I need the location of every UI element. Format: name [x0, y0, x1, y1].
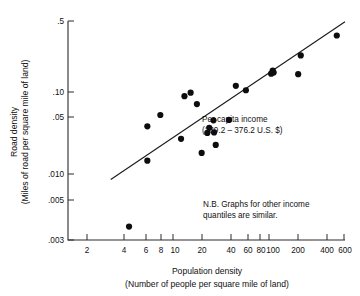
data-point [157, 112, 163, 118]
y-axis-sublabel: (Miles of road per square mile of land) [20, 60, 30, 205]
y-axis-label: Road density [9, 106, 19, 157]
data-point [178, 136, 184, 142]
x-axis-label: Population density [172, 266, 243, 276]
x-tick-label-600: 600 [338, 246, 352, 255]
x-tick-label-60: 60 [243, 246, 253, 255]
x-tick-label-40: 40 [226, 246, 236, 255]
data-point [194, 101, 200, 107]
x-tick-label-8: 8 [159, 246, 164, 255]
y-axis-label-group: Road density (Miles of road per square m… [9, 60, 30, 205]
y-tick-label-0.005: .005 [48, 196, 64, 205]
data-point [295, 71, 301, 77]
x-tick-label-2: 2 [85, 246, 90, 255]
data-point [334, 32, 340, 38]
x-tick-label-80: 80 [256, 246, 266, 255]
data-point [243, 87, 249, 93]
x-axis-tick-labels: 2 4 6 8 10 20 40 60 80 100 200 400 600 [85, 246, 353, 255]
x-tick-label-6: 6 [144, 246, 149, 255]
scatter-plot-svg: Road density (Miles of road per square m… [0, 0, 360, 296]
data-point [181, 93, 187, 99]
quantiles-note-line2: quantiles are similar. [203, 211, 278, 220]
y-axis-tick-labels: .5 .10 .05 .010 .005 .003 [48, 17, 64, 245]
data-point [213, 142, 219, 148]
x-axis-label-group: Population density (Number of people per… [125, 266, 289, 289]
x-tick-label-100: 100 [266, 246, 280, 255]
y-tick-label-0.10: .10 [53, 88, 65, 97]
x-axis-sublabel: (Number of people per square mile of lan… [125, 279, 289, 289]
quantiles-note: N.B. Graphs for other income quantiles a… [203, 200, 310, 220]
data-point [126, 224, 132, 230]
chart-figure: Road density (Miles of road per square m… [0, 0, 360, 296]
data-point [144, 123, 150, 129]
data-point [298, 52, 304, 58]
per-capita-income-line1: Per capita income [202, 115, 268, 124]
y-tick-label-0.003: .003 [48, 236, 64, 245]
per-capita-income-note: Per capita income (239.2 – 376.2 U.S. $) [202, 115, 283, 135]
x-tick-label-20: 20 [197, 246, 207, 255]
x-tick-label-4: 4 [122, 246, 127, 255]
y-tick-label-0.05: .05 [53, 113, 65, 122]
x-axis-ticks [87, 234, 344, 240]
quantiles-note-line1: N.B. Graphs for other income [203, 200, 310, 209]
data-point [188, 90, 194, 96]
x-tick-label-200: 200 [291, 246, 305, 255]
data-point [233, 83, 239, 89]
per-capita-income-line2: (239.2 – 376.2 U.S. $) [202, 126, 283, 135]
trend-line [111, 22, 345, 180]
y-axis-ticks [68, 21, 74, 240]
y-tick-label-0.5: .5 [57, 17, 64, 26]
y-tick-label-0.010: .010 [48, 170, 64, 179]
data-point [144, 158, 150, 164]
x-tick-label-10: 10 [170, 246, 180, 255]
x-tick-label-400: 400 [320, 246, 334, 255]
data-point [271, 70, 277, 76]
data-point [199, 150, 205, 156]
